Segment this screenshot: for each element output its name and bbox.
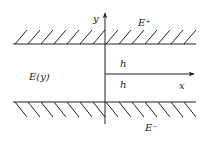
channel-diagram: y E⁺ h h x E(y) E⁻ xyxy=(0,0,208,142)
hatch-mark xyxy=(41,102,53,117)
hatch-mark xyxy=(54,102,66,117)
hatch-mark xyxy=(132,30,144,44)
hatch-mark xyxy=(80,102,92,117)
hatch-mark xyxy=(41,30,53,44)
hatch-mark xyxy=(132,102,144,117)
hatch-mark xyxy=(15,30,27,44)
upper-region-label: E⁺ xyxy=(137,17,151,28)
hatch-mark xyxy=(15,102,27,117)
hatch-mark xyxy=(67,30,79,44)
hatch-mark xyxy=(93,102,105,117)
x-axis-label: x xyxy=(179,80,185,91)
lower-region-label: E⁻ xyxy=(144,122,158,133)
hatch-mark xyxy=(106,102,118,117)
hatch-mark xyxy=(54,30,66,44)
hatch-mark xyxy=(171,30,183,44)
hatch-mark xyxy=(184,30,196,44)
hatch-mark xyxy=(119,30,131,44)
hatch-mark xyxy=(67,102,79,117)
hatch-mark xyxy=(171,102,183,117)
hatch-mark xyxy=(145,30,157,44)
hatch-mark xyxy=(80,30,92,44)
channel-label: E(y) xyxy=(28,71,50,82)
upper-half-height-label: h xyxy=(120,58,126,69)
hatch-mark xyxy=(145,102,157,117)
lower-half-height-label: h xyxy=(120,79,126,90)
hatch-mark xyxy=(93,30,105,44)
hatch-mark xyxy=(158,30,170,44)
y-axis-label: y xyxy=(92,13,99,24)
hatch-mark xyxy=(28,102,40,117)
hatch-mark xyxy=(106,30,118,44)
hatch-mark xyxy=(119,102,131,117)
hatch-mark xyxy=(158,102,170,117)
hatch-mark xyxy=(28,30,40,44)
hatch-mark xyxy=(184,102,196,117)
